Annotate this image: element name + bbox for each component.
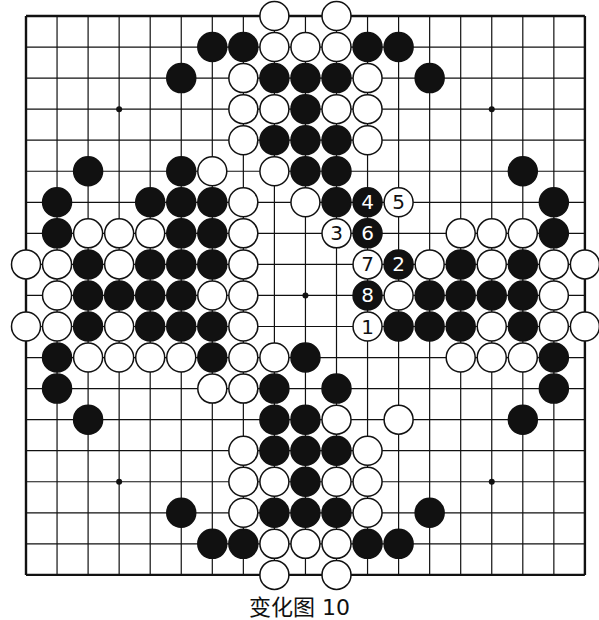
move-number: 6 bbox=[361, 221, 374, 245]
move-number: 3 bbox=[330, 221, 343, 245]
black-stone bbox=[198, 312, 227, 341]
diagram-caption: 变化图 10 bbox=[0, 596, 599, 620]
white-stone bbox=[353, 95, 382, 124]
black-stone bbox=[291, 467, 320, 496]
white-stone bbox=[539, 250, 568, 279]
white-stone bbox=[477, 312, 506, 341]
black-stone bbox=[74, 157, 103, 186]
white-stone bbox=[415, 250, 444, 279]
white-stone bbox=[74, 219, 103, 248]
white-stone bbox=[384, 281, 413, 310]
black-stone bbox=[198, 343, 227, 372]
white-stone bbox=[105, 343, 134, 372]
black-stone bbox=[539, 188, 568, 217]
black-stone bbox=[43, 219, 72, 248]
white-stone bbox=[229, 436, 258, 465]
black-stone bbox=[260, 374, 289, 403]
black-stone bbox=[322, 126, 351, 155]
black-stone bbox=[291, 64, 320, 93]
black-stone bbox=[508, 281, 537, 310]
white-stone bbox=[539, 281, 568, 310]
white-stone bbox=[260, 95, 289, 124]
black-stone bbox=[446, 312, 475, 341]
white-stone bbox=[508, 219, 537, 248]
white-stone bbox=[12, 250, 41, 279]
black-stone bbox=[260, 498, 289, 527]
black-stone bbox=[353, 529, 382, 558]
move-number: 4 bbox=[361, 190, 374, 214]
black-stone bbox=[136, 312, 165, 341]
star-point bbox=[489, 106, 495, 112]
black-stone bbox=[167, 312, 196, 341]
white-stone bbox=[167, 343, 196, 372]
white-stone bbox=[353, 467, 382, 496]
black-stone bbox=[43, 188, 72, 217]
white-stone bbox=[74, 343, 103, 372]
black-stone bbox=[415, 312, 444, 341]
black-stone bbox=[415, 498, 444, 527]
white-stone bbox=[322, 33, 351, 62]
move-number: 1 bbox=[361, 315, 374, 339]
black-stone bbox=[167, 64, 196, 93]
white-stone bbox=[477, 343, 506, 372]
move-number: 5 bbox=[392, 190, 405, 214]
white-stone bbox=[384, 405, 413, 434]
black-stone bbox=[477, 281, 506, 310]
white-stone bbox=[229, 126, 258, 155]
white-stone bbox=[43, 250, 72, 279]
black-stone bbox=[260, 405, 289, 434]
white-stone bbox=[198, 281, 227, 310]
white-stone bbox=[260, 343, 289, 372]
black-stone bbox=[291, 498, 320, 527]
white-stone bbox=[136, 343, 165, 372]
black-stone bbox=[322, 498, 351, 527]
white-stone bbox=[43, 281, 72, 310]
black-stone bbox=[260, 64, 289, 93]
black-stone bbox=[508, 312, 537, 341]
black-stone bbox=[415, 64, 444, 93]
white-stone bbox=[260, 157, 289, 186]
move-number: 2 bbox=[392, 252, 405, 276]
white-stone bbox=[322, 467, 351, 496]
white-stone bbox=[229, 219, 258, 248]
black-stone bbox=[167, 219, 196, 248]
white-stone bbox=[229, 250, 258, 279]
black-stone bbox=[322, 64, 351, 93]
white-stone bbox=[229, 64, 258, 93]
white-stone bbox=[260, 560, 289, 589]
black-stone bbox=[167, 188, 196, 217]
white-stone bbox=[229, 188, 258, 217]
white-stone bbox=[322, 560, 351, 589]
white-stone bbox=[353, 126, 382, 155]
white-stone bbox=[539, 312, 568, 341]
white-stone bbox=[353, 498, 382, 527]
white-stone bbox=[229, 374, 258, 403]
white-stone bbox=[291, 188, 320, 217]
black-stone bbox=[291, 95, 320, 124]
white-stone bbox=[508, 343, 537, 372]
go-board: 12345678 bbox=[0, 0, 599, 600]
black-stone bbox=[446, 281, 475, 310]
black-stone bbox=[291, 126, 320, 155]
white-stone bbox=[477, 219, 506, 248]
white-stone bbox=[229, 343, 258, 372]
white-stone bbox=[291, 529, 320, 558]
black-stone bbox=[322, 188, 351, 217]
white-stone bbox=[291, 33, 320, 62]
black-stone bbox=[43, 343, 72, 372]
star-point bbox=[489, 479, 495, 485]
white-stone bbox=[570, 250, 599, 279]
white-stone bbox=[570, 312, 599, 341]
black-stone bbox=[322, 374, 351, 403]
black-stone bbox=[539, 219, 568, 248]
move-number: 8 bbox=[361, 283, 374, 307]
white-stone bbox=[229, 467, 258, 496]
white-stone bbox=[198, 374, 227, 403]
white-stone bbox=[12, 312, 41, 341]
white-stone bbox=[43, 312, 72, 341]
white-stone bbox=[229, 95, 258, 124]
black-stone bbox=[260, 436, 289, 465]
black-stone bbox=[198, 188, 227, 217]
black-stone bbox=[508, 250, 537, 279]
black-stone bbox=[198, 250, 227, 279]
